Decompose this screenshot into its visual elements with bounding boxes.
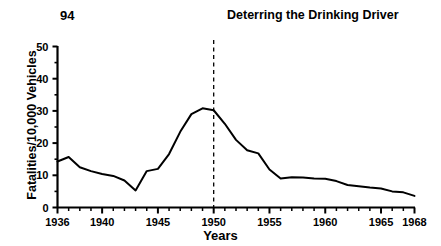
x-axis-tick-labels: 19361940194519501955196019651968 [45, 216, 426, 228]
x-tick-label: 1940 [90, 216, 114, 228]
x-tick-label: 1945 [146, 216, 170, 228]
x-tick-label: 1965 [369, 216, 393, 228]
x-tick-label: 1968 [402, 216, 426, 228]
y-axis-label: Fatalities/10,000 Vehicles [25, 30, 39, 220]
page: 94 Deterring the Drinking Driver 0102030… [0, 0, 441, 246]
chart-canvas: 01020304050 1936194019451950195519601965… [0, 0, 441, 246]
x-tick-label: 1955 [257, 216, 281, 228]
chart-figure: 01020304050 1936194019451950195519601965… [0, 0, 441, 246]
x-tick-label: 1936 [45, 216, 69, 228]
x-tick-label: 1960 [313, 216, 337, 228]
y-tick-label: 0 [42, 202, 48, 214]
x-tick-label: 1950 [201, 216, 225, 228]
data-series [58, 108, 415, 196]
x-axis-label: Years [0, 228, 441, 243]
